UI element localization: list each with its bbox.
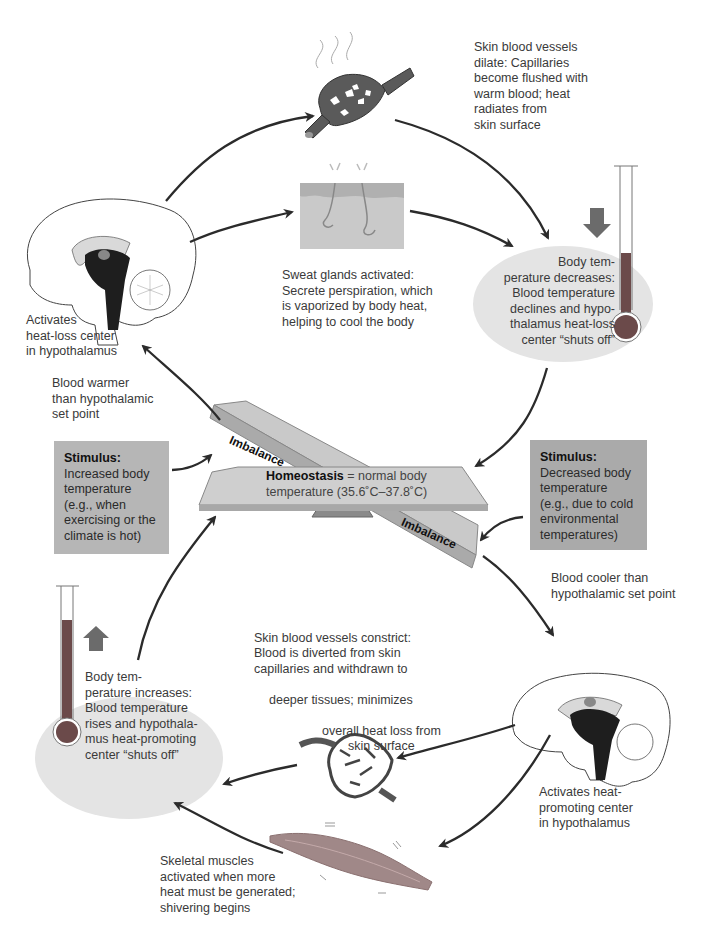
label-brain-bottom: Activates heat- promoting center in hypo… [539, 785, 633, 832]
constrict-line-3: overall heat loss from skin surface [254, 724, 441, 755]
arrow-seesaw-to-brain-bottom [483, 556, 553, 635]
stimulus-heading: Stimulus: [64, 451, 159, 467]
label-muscles: Skeletal muscles activated when more hea… [160, 854, 296, 916]
arrow-seesaw-to-brain-top [143, 346, 220, 420]
stimulus-text: Increased body temperature (e.g., when e… [64, 467, 156, 543]
up-arrow-icon [83, 626, 109, 651]
homeostasis-bold: Homeostasis [266, 469, 344, 483]
brain-icon-bottom [512, 673, 670, 786]
stimulus-box-decreased: Stimulus: Decreased body temperature (e.… [530, 440, 647, 550]
thermometer-icon-bottom [53, 586, 81, 746]
label-blood-cooler: Blood cooler than hypothalamic set point [551, 571, 675, 602]
arrow-brain-to-capillary [166, 116, 313, 201]
homeostasis-range: temperature (35.6˚C–37.8˚C) [266, 485, 427, 499]
label-sweat-glands: Sweat glands activated: Secrete perspira… [282, 268, 433, 330]
label-response-top: Body tem- perature decreases: Blood temp… [485, 255, 615, 348]
arrow-capillary-to-response [395, 120, 548, 238]
capillary-dilate-icon [305, 32, 414, 138]
arrow-brain-to-muscle [440, 735, 550, 846]
constrict-line-1: Skin blood vessels constrict: Blood is d… [254, 631, 411, 676]
sweat-gland-icon [300, 163, 404, 249]
label-blood-warmer: Blood warmer than hypothalamic set point [52, 376, 153, 423]
arrow-sweat-to-response [410, 211, 512, 246]
label-vessels-dilate: Skin blood vessels dilate: Capillaries b… [474, 40, 588, 133]
label-brain-top: Activates heat-loss center in hypothalam… [26, 313, 117, 360]
arrow-stimulus-left [172, 455, 211, 470]
down-arrow-icon [583, 208, 611, 238]
stimulus-heading: Stimulus: [540, 450, 637, 466]
label-response-bottom: Body tem- perature increases: Blood temp… [85, 670, 198, 763]
thermometer-icon-top [611, 166, 641, 342]
arrow-capillary-to-response-bottom [224, 765, 297, 784]
label-vessels-constrict: Skin blood vessels constrict: Blood is d… [254, 615, 441, 755]
arrow-brain-to-sweat [190, 212, 292, 242]
homeostasis-rest: = normal body [344, 469, 427, 483]
stimulus-text: Decreased body temperature (e.g., due to… [540, 466, 633, 542]
arrow-stimulus-right [481, 517, 523, 540]
constrict-line-2: deeper tissues; minimizes [254, 693, 413, 707]
arrow-muscle-to-response [175, 803, 283, 853]
stimulus-box-increased: Stimulus: Increased body temperature (e.… [54, 441, 169, 554]
homeostasis-text: Homeostasis = normal body temperature (3… [266, 468, 427, 500]
